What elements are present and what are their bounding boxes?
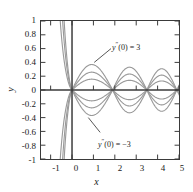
solution-curve: [72, 67, 179, 115]
annotation-leader-line: [94, 49, 111, 63]
y-tick-label-1: 1: [2, 16, 36, 25]
y-tick-label-0.6: 0.6: [2, 44, 36, 53]
annotation-upper: y″(0) = 3: [112, 39, 140, 52]
x-tick-label-1: 1: [88, 164, 108, 173]
y-tick-label-neg0.6: -0.6: [2, 128, 36, 137]
x-tick-label-neg1: -1: [46, 164, 66, 173]
annotation-leader-line: [88, 118, 100, 133]
x-tick-label-0: 0: [66, 164, 86, 173]
solution-curve: [72, 65, 179, 113]
y-axis-title: y: [5, 76, 16, 104]
annotation-upper-rest: (0) = 3: [118, 43, 140, 52]
x-tick-label-2: 2: [110, 164, 130, 173]
annotation-lower-rest: (0) = −3: [104, 140, 130, 149]
figure-container: 1 0.8 0.6 0.4 0.2 0 -0.2 -0.4 -0.6 -0.8 …: [0, 0, 193, 192]
x-axis-title: x: [0, 176, 193, 187]
x-tick-label-5: 5: [172, 164, 192, 173]
y-tick-label-neg1: -1: [2, 156, 36, 165]
x-tick-label-4: 4: [153, 164, 173, 173]
annotation-lower: y″(0) = −3: [98, 136, 131, 149]
y-tick-label-0.4: 0.4: [2, 58, 36, 67]
y-tick-label-0.8: 0.8: [2, 30, 36, 39]
y-tick-label-neg0.8: -0.8: [2, 142, 36, 151]
y-tick-label-neg0.4: -0.4: [2, 114, 36, 123]
x-tick-label-3: 3: [132, 164, 152, 173]
